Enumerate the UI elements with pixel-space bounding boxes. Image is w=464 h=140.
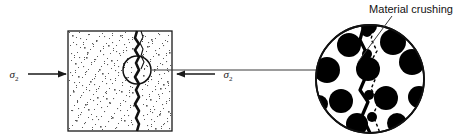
speckle-dot	[166, 101, 167, 102]
crushed-material-node	[367, 112, 377, 122]
speckle-dot	[97, 56, 98, 57]
speckle-dot	[124, 115, 125, 116]
speckle-dot	[113, 48, 114, 49]
speckle-dot	[128, 77, 129, 78]
speckle-dot	[110, 79, 111, 80]
speckle-dot	[77, 101, 78, 102]
speckle-dot	[92, 119, 93, 120]
speckle-dot	[128, 125, 129, 126]
speckle-dot	[145, 84, 146, 85]
speckle-dot	[86, 57, 88, 59]
speckle-dot	[129, 96, 130, 97]
speckle-dot	[128, 39, 129, 40]
speckle-dot	[71, 53, 72, 54]
stress-label-left-subscript: 2	[15, 75, 19, 83]
speckle-dot	[99, 86, 100, 87]
speckle-dot	[97, 97, 99, 99]
specimen-outline	[68, 31, 172, 131]
speckle-dot	[85, 74, 86, 75]
speckle-dot	[162, 93, 163, 94]
speckle-dot	[105, 78, 106, 79]
speckle-dot	[78, 67, 79, 68]
speckle-dot	[115, 80, 116, 81]
speckle-dot	[75, 120, 76, 121]
speckle-dot	[121, 70, 122, 71]
speckle-dot	[124, 120, 126, 122]
speckle-dot	[79, 82, 80, 83]
speckle-dot	[149, 96, 150, 97]
speckle-dot	[99, 69, 101, 71]
speckle-dot	[170, 65, 171, 66]
speckle-dot	[108, 73, 109, 74]
speckle-dot	[131, 122, 132, 123]
speckle-dot	[78, 76, 80, 78]
speckle-dot	[80, 97, 81, 98]
speckle-dot	[107, 58, 108, 59]
speckle-dot	[142, 95, 143, 96]
speckle-dot	[157, 66, 158, 67]
speckle-dot	[114, 65, 115, 66]
speckle-dot	[119, 40, 120, 41]
speckle-dot	[88, 69, 89, 70]
speckle-dot	[74, 105, 75, 106]
speckle-dot	[131, 120, 132, 121]
speckle-dot	[165, 40, 166, 41]
speckle-dot	[130, 107, 131, 108]
speckle-dot	[93, 94, 94, 95]
speckle-dot	[109, 38, 110, 39]
speckle-dot	[107, 106, 108, 107]
speckle-dot	[121, 120, 122, 121]
speckle-dot	[94, 84, 95, 85]
speckle-dot	[114, 63, 115, 64]
speckle-dot	[78, 108, 79, 109]
speckle-dot	[95, 76, 96, 77]
speckle-dot	[159, 74, 160, 75]
speckle-dot	[94, 61, 95, 62]
speckle-dot	[126, 50, 127, 51]
speckle-dot	[151, 126, 152, 127]
speckle-dot	[89, 90, 90, 91]
speckle-dot	[152, 43, 153, 44]
speckle-dot	[79, 32, 80, 33]
speckle-dot	[153, 106, 154, 107]
speckle-dot	[147, 46, 149, 48]
speckle-dot	[168, 71, 169, 72]
speckle-dot	[76, 85, 77, 86]
aggregate-particle	[337, 33, 361, 57]
speckle-dot	[148, 129, 149, 130]
speckle-dot	[85, 104, 87, 106]
speckle-dot	[112, 83, 113, 84]
speckle-dot	[72, 35, 74, 37]
speckle-dot	[78, 117, 79, 118]
speckle-dot	[142, 55, 143, 56]
speckle-dot	[154, 121, 155, 122]
speckle-dot	[70, 95, 71, 96]
speckle-dot	[95, 124, 96, 125]
speckle-dot	[83, 92, 84, 93]
speckle-dot	[120, 103, 121, 104]
speckle-dot	[155, 86, 156, 87]
speckle-dot	[116, 93, 117, 94]
speckle-dot	[106, 91, 107, 92]
speckle-dot	[84, 123, 85, 124]
speckle-dot	[169, 52, 171, 54]
speckle-dot	[169, 98, 170, 99]
speckle-dot	[129, 90, 130, 91]
speckle-dot	[144, 69, 145, 70]
speckle-dot	[101, 66, 102, 67]
speckle-dot	[90, 81, 92, 83]
speckle-dot	[120, 110, 121, 111]
speckle-dot	[118, 72, 119, 73]
speckle-dot	[164, 123, 165, 124]
speckle-dot	[92, 79, 93, 80]
speckle-dot	[89, 84, 90, 85]
speckle-dot	[167, 41, 168, 42]
speckle-dot	[85, 72, 86, 73]
speckle-dot	[105, 76, 106, 77]
speckle-dot	[150, 59, 151, 60]
speckle-dot	[150, 111, 151, 112]
speckle-dot	[106, 98, 108, 100]
speckle-dot	[122, 37, 123, 38]
speckle-dot	[97, 104, 98, 105]
speckle-dot	[158, 83, 159, 84]
